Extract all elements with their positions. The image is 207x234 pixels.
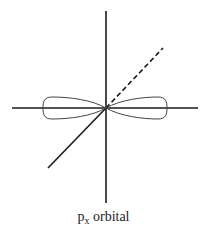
- px-orbital-diagram: [0, 0, 207, 234]
- caption-subscript: x: [84, 215, 89, 226]
- orbital-caption: px orbital: [0, 208, 207, 227]
- caption-rest: orbital: [89, 209, 129, 224]
